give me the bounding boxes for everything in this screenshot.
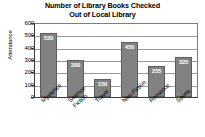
- y-axis-tick-mark: [31, 72, 34, 73]
- bar-value-label: 150: [95, 81, 110, 88]
- y-axis-tick-mark: [31, 85, 34, 86]
- x-axis-tick-labels: MysteriesScienceFictionTravelNon-Fiction…: [35, 99, 197, 137]
- bar-slot: 150: [94, 23, 111, 97]
- y-axis-tick-mark: [31, 35, 34, 36]
- y-axis-tick-mark: [31, 48, 34, 49]
- y-axis-tick-mark: [31, 97, 34, 98]
- bar-value-label: 255: [149, 68, 164, 75]
- bar-value-label: 520: [41, 35, 56, 42]
- bar-value-label: 300: [68, 62, 83, 69]
- bar-value-label: 325: [176, 59, 191, 66]
- y-axis-tick-mark: [31, 60, 34, 61]
- bar-chart: Number of Library Books Checked Out of L…: [0, 0, 205, 137]
- y-axis-tick-mark: [31, 23, 34, 24]
- chart-title-line-1: Number of Library Books Checked: [45, 1, 160, 10]
- bar-value-label: 450: [122, 44, 137, 51]
- bar-slot: 325: [175, 23, 192, 97]
- chart-title: Number of Library Books Checked Out of L…: [0, 1, 205, 19]
- chart-title-line-2: Out of Local Library: [0, 10, 205, 19]
